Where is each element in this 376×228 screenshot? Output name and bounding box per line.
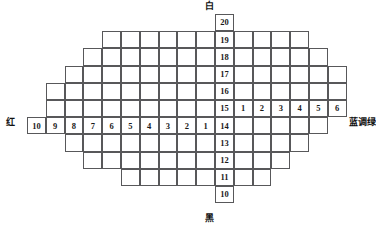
value-axis-cell-17: 17 bbox=[215, 66, 234, 83]
grid-cell bbox=[177, 66, 196, 83]
grid-cell bbox=[253, 66, 272, 83]
blue-green-axis-cell-1: 1 bbox=[234, 100, 253, 117]
grid-cell bbox=[234, 66, 253, 83]
grid-cell bbox=[177, 83, 196, 100]
grid-cell bbox=[253, 134, 272, 151]
grid-cell bbox=[177, 48, 196, 65]
red-axis-cell-10: 10 bbox=[27, 117, 46, 134]
grid-cell bbox=[83, 134, 102, 151]
grid-cell bbox=[83, 48, 102, 65]
grid-cell bbox=[159, 66, 178, 83]
grid-cell bbox=[177, 134, 196, 151]
grid-cell bbox=[159, 100, 178, 117]
grid-cell bbox=[234, 152, 253, 169]
grid-cell bbox=[196, 31, 215, 48]
red-axis-cell-6: 6 bbox=[102, 117, 121, 134]
grid-cell bbox=[159, 134, 178, 151]
grid-cell bbox=[102, 134, 121, 151]
grid-cell bbox=[121, 169, 140, 186]
grid-cell bbox=[290, 48, 309, 65]
grid-cell bbox=[253, 31, 272, 48]
grid-cell bbox=[46, 100, 65, 117]
value-axis-cell-14: 14 bbox=[215, 117, 234, 134]
grid-cell bbox=[271, 31, 290, 48]
grid-cell bbox=[140, 152, 159, 169]
grid-cell bbox=[121, 31, 140, 48]
red-axis-cell-5: 5 bbox=[121, 117, 140, 134]
grid-cell bbox=[159, 48, 178, 65]
grid-cell bbox=[196, 134, 215, 151]
grid-cell bbox=[121, 66, 140, 83]
grid-cell bbox=[290, 117, 309, 134]
blue-green-axis-cell-3: 3 bbox=[271, 100, 290, 117]
grid-cell bbox=[121, 134, 140, 151]
grid-cell bbox=[140, 48, 159, 65]
grid-cell bbox=[83, 152, 102, 169]
grid-cell bbox=[328, 66, 347, 83]
grid-cell bbox=[196, 48, 215, 65]
grid-cell bbox=[253, 83, 272, 100]
grid-cell bbox=[290, 134, 309, 151]
value-axis-cell-13: 13 bbox=[215, 134, 234, 151]
grid-cell bbox=[140, 31, 159, 48]
grid-cell bbox=[159, 31, 178, 48]
grid-cell bbox=[196, 83, 215, 100]
blue-green-axis-cell-6: 6 bbox=[328, 100, 347, 117]
grid-cell bbox=[121, 152, 140, 169]
grid-cell bbox=[102, 83, 121, 100]
red-axis-cell-3: 3 bbox=[159, 117, 178, 134]
value-axis-cell-11: 11 bbox=[215, 169, 234, 186]
grid-cell bbox=[159, 169, 178, 186]
grid-cell bbox=[309, 117, 328, 134]
grid-cell bbox=[102, 31, 121, 48]
value-axis-cell-15: 15 bbox=[215, 100, 234, 117]
blue-green-axis-cell-2: 2 bbox=[253, 100, 272, 117]
grid-cell bbox=[271, 134, 290, 151]
grid-cell bbox=[196, 169, 215, 186]
grid-cell bbox=[83, 100, 102, 117]
value-axis-cell-10: 10 bbox=[215, 186, 234, 203]
grid-cell bbox=[234, 83, 253, 100]
grid-cell bbox=[140, 83, 159, 100]
grid-cell bbox=[140, 100, 159, 117]
grid-cell bbox=[102, 100, 121, 117]
grid-cell bbox=[309, 83, 328, 100]
axis-label-blue-green: 蓝调绿 bbox=[349, 118, 376, 127]
axis-label-black: 黑 bbox=[205, 214, 214, 223]
value-axis-cell-16: 16 bbox=[215, 83, 234, 100]
grid-cell bbox=[309, 66, 328, 83]
red-axis-cell-4: 4 bbox=[140, 117, 159, 134]
grid-cell bbox=[177, 31, 196, 48]
grid-cell bbox=[234, 169, 253, 186]
grid-cell bbox=[271, 83, 290, 100]
grid-cell bbox=[271, 117, 290, 134]
grid-cell bbox=[253, 48, 272, 65]
color-grid: 201918171615123456109876543211413121110 bbox=[27, 14, 346, 214]
grid-cell bbox=[290, 66, 309, 83]
grid-cell bbox=[271, 66, 290, 83]
blue-green-axis-cell-5: 5 bbox=[309, 100, 328, 117]
grid-cell bbox=[140, 66, 159, 83]
grid-cell bbox=[102, 48, 121, 65]
grid-cell bbox=[328, 83, 347, 100]
value-axis-cell-18: 18 bbox=[215, 48, 234, 65]
grid-cell bbox=[65, 83, 84, 100]
grid-cell bbox=[140, 134, 159, 151]
grid-cell bbox=[102, 152, 121, 169]
red-axis-cell-2: 2 bbox=[177, 117, 196, 134]
red-axis-cell-1: 1 bbox=[196, 117, 215, 134]
value-axis-cell-20: 20 bbox=[215, 14, 234, 31]
axis-label-red: 红 bbox=[6, 118, 15, 127]
value-axis-cell-12: 12 bbox=[215, 152, 234, 169]
grid-cell bbox=[159, 152, 178, 169]
grid-cell bbox=[159, 83, 178, 100]
grid-cell bbox=[177, 100, 196, 117]
grid-cell bbox=[196, 152, 215, 169]
blue-green-axis-cell-4: 4 bbox=[290, 100, 309, 117]
grid-cell bbox=[65, 100, 84, 117]
grid-cell bbox=[253, 169, 272, 186]
red-axis-cell-9: 9 bbox=[46, 117, 65, 134]
red-axis-cell-7: 7 bbox=[83, 117, 102, 134]
grid-cell bbox=[140, 169, 159, 186]
grid-cell bbox=[83, 83, 102, 100]
